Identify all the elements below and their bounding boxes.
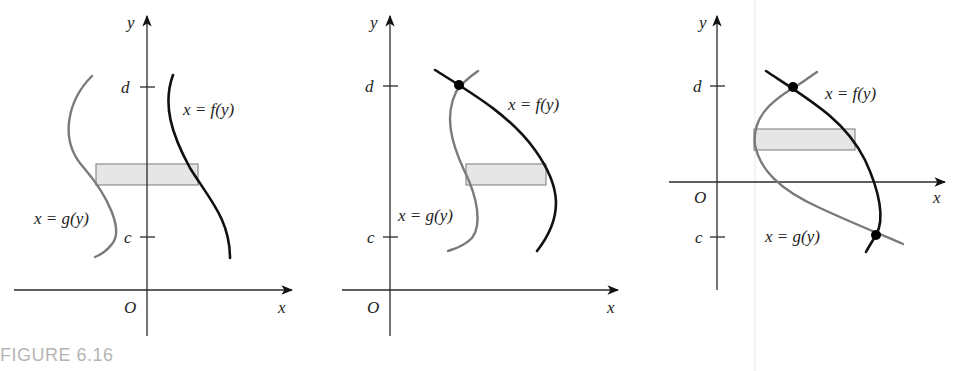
g-curve-label: x = g(y) bbox=[764, 227, 820, 246]
x-axis-label: x bbox=[932, 188, 941, 207]
y-axis-label: y bbox=[697, 13, 707, 32]
horizontal-strip bbox=[466, 164, 546, 185]
g-curve-label: x = g(y) bbox=[397, 206, 453, 225]
f-curve-label: x = f(y) bbox=[182, 100, 234, 119]
f-curve-label: x = f(y) bbox=[824, 84, 876, 103]
y-axis-label: y bbox=[368, 13, 378, 32]
tick-d-label: d bbox=[121, 78, 130, 97]
tick-c-label: c bbox=[695, 228, 703, 247]
panel-2: y x O d c x = f(y) x = g(y) bbox=[342, 13, 618, 336]
x-axis-label: x bbox=[277, 298, 286, 317]
intersection-point-bottom bbox=[871, 230, 881, 240]
origin-label: O bbox=[694, 188, 706, 207]
x-axis-label: x bbox=[606, 298, 615, 317]
origin-label: O bbox=[124, 298, 136, 317]
tick-c-label: c bbox=[367, 228, 375, 247]
figure-canvas: y x O d c x = f(y) x = g(y) y x O d c x … bbox=[0, 0, 954, 371]
intersection-point-top bbox=[788, 82, 798, 92]
f-curve-label: x = f(y) bbox=[507, 95, 559, 114]
y-axis-label: y bbox=[125, 13, 135, 32]
intersection-point bbox=[454, 80, 464, 90]
g-curve-label: x = g(y) bbox=[33, 209, 89, 228]
origin-label: O bbox=[367, 298, 379, 317]
panel-1: y x O d c x = f(y) x = g(y) bbox=[14, 13, 292, 336]
panel-3: y x O d c x = f(y) x = g(y) bbox=[669, 13, 945, 290]
tick-d-label: d bbox=[365, 77, 374, 96]
tick-c-label: c bbox=[124, 228, 132, 247]
horizontal-strip bbox=[754, 129, 855, 150]
tick-d-label: d bbox=[693, 77, 702, 96]
figure-caption: FIGURE 6.16 bbox=[0, 345, 114, 366]
